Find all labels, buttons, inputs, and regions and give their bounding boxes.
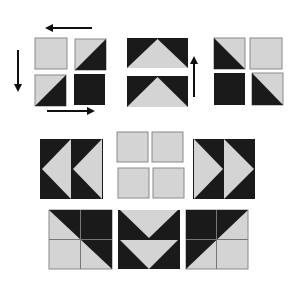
hst-square — [252, 73, 283, 105]
hst-square — [35, 75, 66, 106]
light-square — [35, 38, 67, 69]
light-square — [250, 38, 282, 69]
dark-square — [74, 74, 105, 105]
flying-geese-down — [118, 210, 180, 269]
block-diagonal-right — [186, 210, 248, 269]
plain-four-patch — [117, 132, 184, 198]
flying-geese-up — [127, 38, 194, 107]
hst-square — [214, 38, 245, 69]
block-diagonal-left — [49, 210, 112, 269]
flying-geese-right — [193, 139, 255, 199]
dark-square — [214, 73, 245, 105]
four-patch-rotation — [18, 28, 106, 111]
hst-square — [75, 39, 106, 70]
quilt-diagram — [0, 0, 290, 287]
four-patch-hst-right — [214, 38, 283, 105]
flying-geese-left — [40, 139, 103, 199]
